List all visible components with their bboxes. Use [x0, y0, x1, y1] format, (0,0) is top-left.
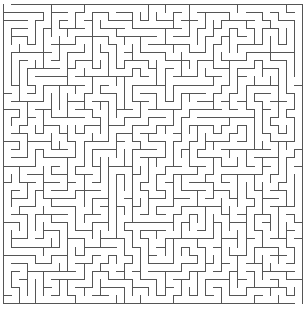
maze-walls	[0, 0, 306, 309]
maze-board	[0, 0, 306, 309]
maze-wall-paths	[3, 4, 303, 304]
